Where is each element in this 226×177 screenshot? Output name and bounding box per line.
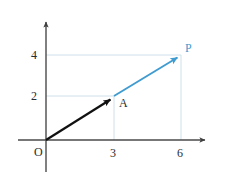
- y-tick-label-4: 4: [31, 49, 37, 61]
- x-tick-label-3: 3: [110, 147, 116, 159]
- point-label-p: P: [185, 42, 192, 54]
- x-tick-label-6: 6: [177, 147, 183, 159]
- origin-label: O: [34, 146, 43, 158]
- vector-oa: [46, 100, 111, 141]
- point-label-a: A: [119, 97, 128, 109]
- vector-ap: [114, 58, 178, 97]
- y-tick-label-2: 2: [31, 90, 37, 102]
- vector-diagram: O 3 6 2 4 A P: [0, 0, 226, 177]
